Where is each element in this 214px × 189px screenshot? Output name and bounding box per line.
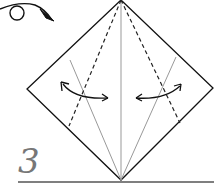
flip-over-arrow-icon — [0, 4, 54, 21]
diamond-outline — [27, 0, 213, 180]
right-diagonal-crease — [121, 57, 176, 180]
right-valley-fold — [121, 0, 180, 123]
step-number: 3 — [18, 144, 40, 178]
right-fold-arrow-icon — [136, 84, 181, 101]
left-fold-arrow-icon — [61, 82, 108, 101]
left-valley-fold — [69, 0, 121, 126]
left-diagonal-crease — [70, 60, 121, 180]
